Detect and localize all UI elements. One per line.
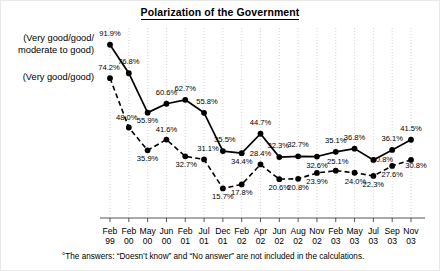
data-point-label: 32.6%	[306, 161, 328, 170]
x-tick-label-year: 03	[369, 236, 379, 246]
data-point-label: 62.7%	[174, 84, 196, 93]
x-tick-label-month: Nov	[309, 226, 325, 236]
data-point-label: 55.8%	[196, 97, 218, 106]
data-point	[239, 150, 245, 156]
data-point-label: 41.5%	[400, 124, 422, 133]
data-point-label: 76.8%	[118, 57, 140, 66]
data-point	[220, 148, 226, 154]
x-tick-label-year: 99	[105, 236, 115, 246]
footnote: °The answers: “Doesn’t know” and “No ans…	[62, 252, 364, 261]
data-point-label: 25.1%	[327, 157, 349, 166]
data-point	[220, 186, 226, 192]
data-point	[182, 97, 188, 103]
data-point	[201, 110, 207, 116]
line-chart-plot: Feb99Feb00May00Jun00Feb01Jul01Dec01Feb02…	[0, 0, 440, 271]
data-point	[126, 125, 132, 131]
x-tick-label-year: 03	[350, 236, 360, 246]
data-point	[333, 149, 339, 155]
data-point	[164, 101, 170, 107]
data-point	[295, 153, 301, 159]
x-tick-label-year: 02	[256, 236, 266, 246]
data-point	[314, 154, 320, 160]
data-point	[276, 176, 282, 182]
data-point-label: 27.6%	[381, 170, 403, 179]
data-point-label: 48.0%	[116, 113, 138, 122]
x-tick-label-year: 02	[237, 236, 247, 246]
x-tick-label-month: Feb	[328, 226, 343, 236]
data-point	[295, 176, 301, 182]
x-tick-label-year: 00	[162, 236, 172, 246]
x-tick-label-year: 03	[331, 236, 341, 246]
data-point-label: 74.2%	[98, 63, 120, 72]
x-tick-label-month: Dec	[215, 226, 231, 236]
x-tick-label-year: 02	[293, 236, 303, 246]
x-tick-label-year: 01	[199, 236, 209, 246]
x-tick-label-month: Jun	[160, 226, 174, 236]
data-point	[389, 163, 395, 169]
data-point-label: 17.8%	[231, 188, 253, 197]
data-point-label: 32.7%	[175, 160, 197, 169]
data-point	[276, 154, 282, 160]
data-point	[352, 170, 358, 176]
x-tick-label-year: 02	[312, 236, 322, 246]
data-point-label: 30.8%	[405, 161, 427, 170]
x-tick-label-month: Nov	[403, 226, 419, 236]
x-tick-label-year: 01	[180, 236, 190, 246]
x-tick-label-month: Sep	[385, 226, 401, 236]
data-point	[408, 137, 414, 143]
data-point	[107, 75, 113, 81]
data-point-label: 55.9%	[137, 116, 159, 125]
data-point-label: 91.9%	[99, 29, 121, 38]
data-point-label: 35.9%	[137, 154, 159, 163]
data-point	[145, 147, 151, 153]
data-point-label: 28.4%	[250, 149, 272, 158]
data-point	[389, 147, 395, 153]
data-point	[107, 42, 113, 48]
data-point-label: 22.3%	[363, 180, 385, 189]
data-point	[126, 70, 132, 76]
data-point-label: 32.7%	[287, 140, 309, 149]
data-point	[314, 170, 320, 176]
x-tick-label-year: 02	[275, 236, 285, 246]
x-tick-label-year: 03	[387, 236, 397, 246]
x-tick-label-month: Jul	[199, 226, 210, 236]
x-tick-label-month: Jul	[368, 226, 379, 236]
data-point	[370, 173, 376, 179]
data-point	[201, 156, 207, 162]
data-point	[258, 131, 264, 137]
data-point-label: 31.1%	[197, 144, 219, 153]
x-tick-label-month: Feb	[234, 226, 249, 236]
data-point-label: 36.8%	[344, 133, 366, 142]
data-point-label: 36.1%	[381, 134, 403, 143]
x-tick-label-month: Feb	[121, 226, 136, 236]
x-tick-label-year: 01	[218, 236, 228, 246]
data-point	[164, 137, 170, 143]
data-point-label: 41.6%	[156, 125, 178, 134]
x-tick-label-month: May	[140, 226, 157, 236]
x-tick-label-month: Feb	[178, 226, 193, 236]
x-tick-label-year: 03	[406, 236, 416, 246]
data-point-label: 44.7%	[250, 118, 272, 127]
x-tick-label-month: Aug	[290, 226, 306, 236]
data-point	[333, 168, 339, 174]
data-point	[182, 153, 188, 159]
data-point	[239, 182, 245, 188]
data-point-label: 34.4%	[231, 157, 253, 166]
data-point	[258, 162, 264, 168]
x-tick-label-year: 00	[143, 236, 153, 246]
data-point-label: 23.9%	[306, 177, 328, 186]
x-tick-label-month: May	[346, 226, 363, 236]
data-point-label: 30.8%	[372, 155, 394, 164]
x-tick-label-year: 00	[124, 236, 134, 246]
x-tick-label-month: Feb	[103, 226, 118, 236]
data-point	[352, 146, 358, 152]
data-point-label: 35.5%	[214, 135, 236, 144]
x-tick-label-month: Jun	[272, 226, 286, 236]
x-tick-label-month: Apr	[254, 226, 268, 236]
